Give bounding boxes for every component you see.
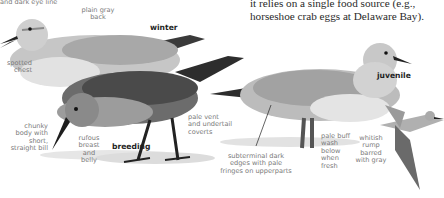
plumage-label-winter: winter	[150, 23, 178, 32]
callout-plain-gray-back: plain gray back	[78, 7, 118, 22]
callout-whitish-rump: whitish rump barred with gray	[355, 135, 387, 165]
body-text: it relies on a single food source (e.g.,…	[250, 0, 444, 23]
callout-chunky-body: chunky body with short, straight bill	[2, 123, 48, 153]
callout-eye-line: and dark eye line	[0, 0, 57, 6]
flying-bird-illustration	[380, 105, 444, 190]
plumage-label-breeding: breeding	[112, 142, 150, 151]
callout-rufous-breast: rufous breast and belly	[74, 135, 104, 165]
callout-spotted-chest: spotted chest	[0, 60, 32, 75]
callout-pale-buff-wash: pale buff wash below when fresh	[321, 133, 350, 170]
callout-subterminal-edges: subterminal dark edges with pale fringes…	[220, 153, 292, 175]
field-guide-page: it relies on a single food source (e.g.,…	[0, 0, 444, 198]
body-text-line-2: horseshoe crab eggs at Delaware Bay).	[250, 10, 444, 23]
body-text-line-1: it relies on a single food source (e.g.,	[250, 0, 444, 10]
callout-pale-vent: pale vent and undertail coverts	[188, 114, 232, 136]
plumage-label-juvenile: juvenile	[377, 71, 411, 80]
